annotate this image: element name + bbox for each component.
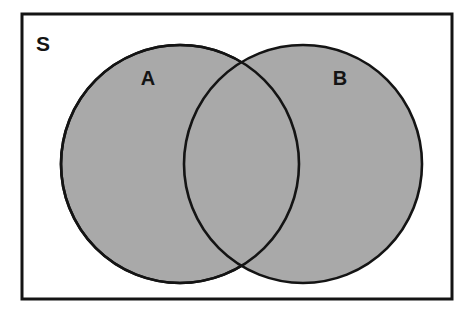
set-a-label: A xyxy=(141,67,155,89)
set-b-label: B xyxy=(333,67,347,89)
universal-set-label: S xyxy=(36,32,50,55)
venn-diagram-figure: S A B xyxy=(0,0,473,318)
set-b-circle xyxy=(184,45,422,283)
venn-diagram-canvas: S A B xyxy=(0,0,473,318)
